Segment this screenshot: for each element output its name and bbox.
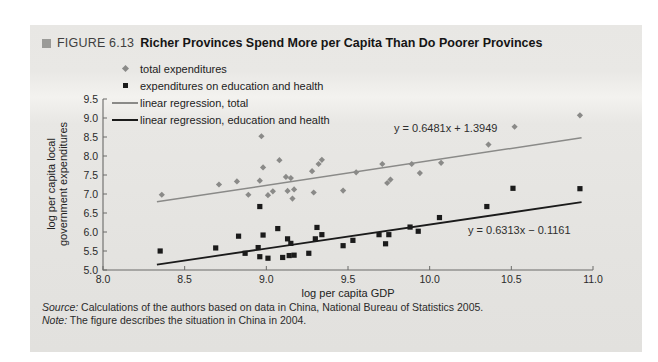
data-point-education-health (416, 229, 421, 234)
data-point-total (319, 157, 325, 163)
data-point-education-health (350, 238, 355, 243)
data-point-total (260, 164, 266, 170)
y-axis-title-line2: government expenditures (57, 122, 69, 246)
data-point-total (283, 174, 289, 180)
data-point-education-health (510, 186, 515, 191)
note-line: Note: The figure describes the situation… (42, 314, 306, 327)
data-point-education-health (437, 215, 442, 220)
x-tick-label: 10.5 (496, 274, 526, 285)
source-label: Source: (42, 301, 78, 313)
data-point-total (258, 133, 264, 139)
legend-row: linear regression, total (110, 94, 330, 111)
figure-screenshot: FIGURE 6.13 Richer Provinces Spend More … (0, 0, 658, 362)
legend-diamond-icon (110, 66, 140, 71)
data-point-education-health (383, 241, 388, 246)
data-point-education-health (280, 255, 285, 260)
data-point-total (577, 112, 583, 118)
data-point-total (159, 192, 165, 198)
data-point-education-health (257, 254, 262, 259)
regression-line-total (157, 138, 582, 202)
data-point-education-health (313, 236, 318, 241)
data-point-education-health (577, 186, 582, 191)
data-point-education-health (319, 232, 324, 237)
x-tick-label: 9.5 (333, 274, 363, 285)
data-point-total (311, 189, 317, 195)
legend-label: expenditures on education and health (140, 80, 323, 92)
legend-label: linear regression, total (140, 97, 248, 109)
y-tick-label: 9.5 (70, 94, 98, 105)
y-tick-label: 7.0 (70, 189, 98, 200)
y-axis-title: log per capita local government expendit… (45, 122, 69, 246)
data-point-education-health (236, 234, 241, 239)
data-point-total (289, 195, 295, 201)
data-point-education-health (341, 243, 346, 248)
data-point-total (284, 188, 290, 194)
data-point-total (316, 161, 322, 167)
data-point-education-health (288, 241, 293, 246)
x-tick-label: 10.0 (415, 274, 445, 285)
legend-row: linear regression, education and health (110, 111, 330, 128)
y-tick-label: 5.0 (70, 265, 98, 276)
y-tick-label: 5.5 (70, 246, 98, 257)
data-point-total (257, 178, 263, 184)
legend-black-line-icon (110, 119, 140, 121)
data-point-education-health (256, 245, 261, 250)
data-point-education-health (275, 226, 280, 231)
y-tick-label: 8.5 (70, 132, 98, 143)
data-point-education-health (484, 204, 489, 209)
y-tick-label: 8.0 (70, 151, 98, 162)
legend-label: total expenditures (140, 63, 227, 75)
equation-total: y = 0.6481x + 1.3949 (394, 122, 497, 134)
data-point-education-health (213, 245, 218, 250)
data-point-education-health (386, 232, 391, 237)
chart-legend: total expendituresexpenditures on educat… (110, 60, 330, 128)
source-line: Source: Calculations of the authors base… (42, 301, 483, 314)
data-point-total (309, 168, 315, 174)
data-point-total (288, 175, 294, 181)
data-point-education-health (407, 224, 412, 229)
data-point-education-health (285, 236, 290, 241)
data-point-total (512, 124, 518, 130)
data-point-total (265, 192, 271, 198)
data-point-education-health (158, 248, 163, 253)
data-point-education-health (306, 251, 311, 256)
data-point-education-health (243, 251, 248, 256)
x-tick-label: 8.5 (170, 274, 200, 285)
y-axis-title-line1: log per capita local (45, 122, 57, 246)
x-tick-label: 8.0 (88, 274, 118, 285)
equation-education-health: y = 0.6313x − 0.1161 (468, 224, 571, 236)
data-point-education-health (257, 204, 262, 209)
legend-label: linear regression, education and health (140, 114, 330, 126)
data-point-total (291, 186, 297, 192)
data-point-total (409, 161, 415, 167)
note-text: The figure describes the situation in Ch… (67, 314, 306, 326)
x-axis-title: log per capita GDP (103, 287, 593, 299)
data-point-total (438, 160, 444, 166)
legend-square-icon (110, 83, 140, 88)
source-text: Calculations of the authors based on dat… (78, 301, 483, 313)
data-point-education-health (287, 253, 292, 258)
data-point-total (270, 188, 276, 194)
y-tick-label: 6.0 (70, 227, 98, 238)
data-point-education-health (376, 232, 381, 237)
data-point-total (276, 157, 282, 163)
y-tick-label: 6.5 (70, 208, 98, 219)
data-point-education-health (265, 256, 270, 261)
data-point-education-health (292, 253, 297, 258)
y-tick-label: 9.0 (70, 113, 98, 124)
x-tick-label: 11.0 (578, 274, 608, 285)
data-point-education-health (314, 225, 319, 230)
legend-row: total expenditures (110, 60, 330, 77)
x-tick-label: 9.0 (251, 274, 281, 285)
data-point-total (485, 142, 491, 148)
data-point-total (340, 187, 346, 193)
y-tick-label: 7.5 (70, 170, 98, 181)
legend-gray-line-icon (110, 102, 140, 104)
data-point-total (245, 192, 251, 198)
data-point-education-health (260, 232, 265, 237)
note-label: Note: (42, 314, 67, 326)
data-point-total (417, 170, 423, 176)
data-point-total (379, 161, 385, 167)
data-point-total (353, 169, 359, 175)
data-point-total (234, 178, 240, 184)
